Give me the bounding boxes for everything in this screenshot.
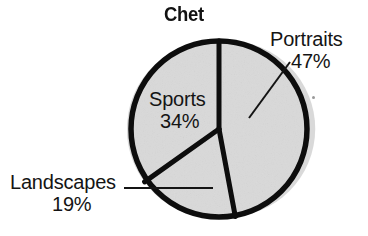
slice-percent-portraits: 47% [291,51,330,72]
pie-chart-figure: Chet [0,0,368,236]
slice-label-landscapes: Landscapes [10,172,116,193]
slice-label-portraits: Portraits [270,29,343,50]
slice-percent-landscapes: 19% [52,194,91,215]
slice-label-sports: Sports [149,89,206,110]
scan-artifact-speck [312,96,315,99]
slice-percent-sports: 34% [160,111,199,132]
